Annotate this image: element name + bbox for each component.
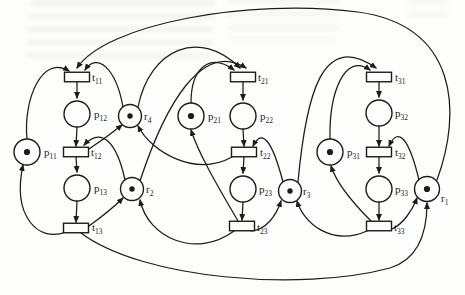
- transition-t13: t13: [64, 221, 103, 236]
- transition-t11: t11: [65, 71, 103, 86]
- t12-label: t12: [91, 146, 102, 161]
- transition-bar-t32: [367, 147, 392, 157]
- p21-label: p21: [208, 110, 221, 125]
- arc-p22-to-t22: [243, 129, 244, 146]
- idle-place-p11: p11: [14, 139, 57, 165]
- arc-p13-to-t13: [76, 201, 77, 222]
- token-p31: [327, 149, 333, 155]
- idle-place-p21: p21: [178, 103, 221, 129]
- transition-bar-t13: [64, 223, 89, 233]
- operation-place-p22: p22: [230, 103, 273, 129]
- transition-t31: t31: [367, 71, 406, 86]
- transition-t23: t23: [230, 221, 268, 236]
- t22-label: t22: [260, 146, 271, 161]
- t31-label: t31: [395, 71, 406, 86]
- transition-bar-t11: [65, 72, 90, 82]
- r4-label: r4: [144, 110, 152, 125]
- t11-label: t11: [92, 71, 103, 86]
- p23-label: p23: [259, 183, 272, 198]
- transition-bar-t12: [64, 147, 89, 157]
- arc-t12-to-p13: [76, 157, 77, 172]
- token-r4: [127, 113, 132, 118]
- place-circle-p13: [64, 175, 90, 201]
- p12-label: p12: [94, 108, 107, 123]
- place-circle-p12: [64, 101, 90, 127]
- petri-net-svg: p11p12p13p21p22p23p31p32p33r4r2r3r1t11t1…: [0, 0, 465, 295]
- arc-t23-to-p21: [191, 130, 238, 221]
- operation-place-p32: p32: [366, 100, 408, 126]
- transition-t21: t21: [231, 71, 269, 86]
- arc-t22-to-r4: [138, 126, 232, 164]
- petri-net-diagram: p11p12p13p21p22p23p31p32p33r4r2r3r1t11t1…: [0, 0, 465, 295]
- t23-label: t23: [257, 221, 268, 236]
- t32-label: t32: [395, 146, 406, 161]
- t33-label: t33: [394, 221, 405, 236]
- arc-t23-to-r2: [140, 200, 234, 244]
- p13-label: p13: [94, 182, 107, 197]
- resource-place-r2: r2: [121, 178, 154, 201]
- t21-label: t21: [258, 71, 269, 86]
- resource-place-r4: r4: [119, 105, 152, 128]
- operation-place-p12: p12: [64, 101, 107, 127]
- place-circle-p33: [366, 176, 392, 202]
- token-r1: [424, 186, 430, 192]
- token-p21: [188, 113, 194, 119]
- arc-p12-to-t12: [76, 127, 77, 146]
- transition-t33: t33: [367, 221, 405, 236]
- operation-place-p13: p13: [64, 175, 107, 201]
- arc-p23-to-t23: [242, 202, 243, 220]
- arc-p11-to-t11: [26, 67, 69, 139]
- arc-p21-to-t21: [191, 63, 234, 103]
- transition-bar-t31: [367, 72, 392, 82]
- arc-t13-to-r1: [81, 203, 427, 280]
- arc-t13-to-p11: [20, 165, 66, 234]
- resource-place-r3: r3: [279, 180, 311, 203]
- r3-label: r3: [303, 185, 311, 200]
- p33-label: p33: [395, 183, 408, 198]
- r2-label: r2: [146, 183, 154, 198]
- arc-r4-to-t21: [138, 47, 240, 107]
- idle-place-p31: p31: [317, 139, 360, 165]
- r1-label: r1: [441, 192, 449, 207]
- resource-place-r1: r1: [415, 177, 449, 207]
- arc-p31-to-t31: [330, 66, 370, 139]
- arc-t22-to-p23: [243, 157, 244, 173]
- operation-place-p23: p23: [230, 176, 272, 202]
- transition-bar-t33: [367, 221, 392, 231]
- p32-label: p32: [395, 107, 408, 122]
- p11-label: p11: [44, 146, 57, 161]
- token-p11: [24, 149, 30, 155]
- place-circle-p23: [230, 176, 256, 202]
- t13-label: t13: [92, 221, 103, 236]
- transition-bar-t22: [232, 147, 257, 157]
- p31-label: p31: [347, 146, 360, 161]
- transition-t22: t22: [232, 146, 271, 161]
- transition-bar-t21: [231, 72, 256, 82]
- token-r2: [129, 186, 134, 191]
- transition-t32: t32: [367, 146, 406, 161]
- p22-label: p22: [260, 110, 273, 125]
- place-circle-p32: [366, 100, 392, 126]
- operation-place-p33: p33: [366, 176, 408, 202]
- place-circle-p22: [230, 103, 256, 129]
- transition-t12: t12: [64, 146, 102, 161]
- token-r3: [287, 188, 292, 193]
- transition-bar-t23: [230, 221, 255, 231]
- arc-r4-to-t11: [85, 63, 123, 107]
- arc-t33-to-p31: [331, 166, 371, 221]
- arc-r2-to-t12: [84, 137, 125, 180]
